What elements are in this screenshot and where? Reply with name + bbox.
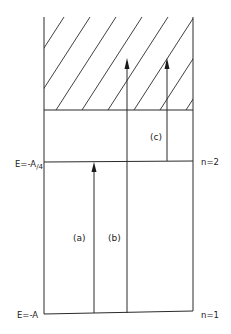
level-n1-energy-label: E=-A: [17, 310, 38, 320]
energy-level-diagram: (a) (b) (c) E=-A/4 n=2 E=-A n=1: [0, 0, 231, 334]
level-n2-state-label: n=2: [201, 157, 219, 167]
transition-b-label: (b): [108, 233, 121, 243]
level-n1-state-label: n=1: [201, 310, 219, 320]
level-n2-line: [44, 161, 193, 162]
transition-a-label: (a): [73, 233, 86, 243]
transition-c-label: (c): [150, 132, 162, 142]
transition-a-arrow: [92, 162, 97, 313]
level-n1-line: [44, 311, 193, 314]
continuum-hatch: [4, 17, 231, 110]
transition-b-arrow: [125, 58, 130, 313]
level-n2-energy-label: E=-A/4: [15, 159, 44, 171]
